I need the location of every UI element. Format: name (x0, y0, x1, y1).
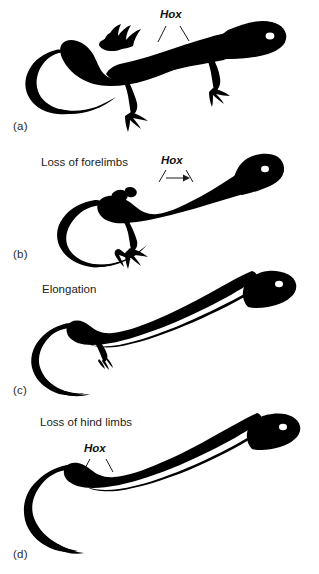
panel-label-d: (d) (13, 548, 28, 560)
panel-label-c: (c) (13, 384, 27, 396)
evolution-figure: (a) Hox (0, 0, 319, 574)
panel-c: (c) Elongation (0, 270, 319, 402)
panel-d: (d) Loss of hind limbs Hox (0, 402, 319, 574)
panel-b: (b) Loss of forelimbs Hox (0, 148, 319, 270)
lizard-silhouette-a (0, 0, 319, 148)
stage-caption-d: Loss of hind limbs (40, 416, 132, 428)
eye (279, 424, 287, 431)
stage-caption-c: Elongation (42, 283, 96, 295)
panel-label-b: (b) (13, 248, 28, 260)
panel-label-a: (a) (13, 120, 28, 132)
hox-label-b: Hox (161, 154, 183, 166)
panel-a: (a) Hox (0, 0, 319, 148)
hox-leader-lines-b (159, 170, 193, 182)
eye (266, 33, 275, 40)
hox-leader-lines-a (158, 26, 189, 42)
eye (261, 166, 269, 172)
hox-label-a: Hox (160, 8, 182, 20)
hox-label-d: Hox (84, 442, 106, 454)
stage-caption-b: Loss of forelimbs (41, 156, 128, 168)
eye (275, 281, 283, 287)
